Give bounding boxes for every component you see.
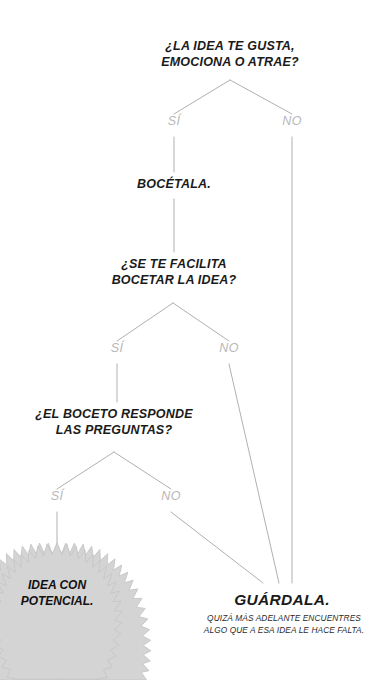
node-question-2: ¿SE TE FACILITA BOCETAR LA IDEA?	[94, 256, 254, 288]
node-question-3: ¿EL BOCETO RESPONDE LAS PREGUNTAS?	[24, 406, 204, 438]
edge-q1-no-diagonal	[230, 80, 292, 114]
badge-label-idea-con-potencial: IDEA CON POTENCIAL.	[7, 578, 107, 609]
edge-q3-no-diagonal	[114, 452, 171, 489]
edge-q2-yes-diagonal	[117, 303, 173, 341]
node-action-bocetala: BOCÉTALA.	[104, 176, 244, 192]
edge-q3-no-stem	[171, 512, 263, 583]
flowchart-canvas: ¿LA IDEA TE GUSTA, EMOCIONA O ATRAE? BOC…	[0, 0, 386, 680]
edge-q2-no-stem	[229, 364, 279, 583]
edge-q1-yes-diagonal	[174, 80, 230, 114]
edge-label-q1-no: NO	[278, 114, 306, 128]
edge-label-q1-yes: SÍ	[160, 114, 188, 128]
edge-label-q3-no: NO	[157, 489, 185, 503]
node-terminal-guardala: GUÁRDALA.	[192, 590, 372, 610]
edge-label-q2-no: NO	[215, 341, 243, 355]
edge-label-q3-yes: SÍ	[43, 489, 71, 503]
edge-q3-yes-diagonal	[57, 452, 114, 489]
node-terminal-guardala-subtitle: QUIZÁ MÁS ADELANTE ENCUENTRES ALGO QUE A…	[186, 613, 382, 637]
edge-label-q2-yes: SÍ	[103, 341, 131, 355]
node-question-1: ¿LA IDEA TE GUSTA, EMOCIONA O ATRAE?	[140, 38, 320, 70]
edge-q2-no-diagonal	[173, 303, 229, 341]
